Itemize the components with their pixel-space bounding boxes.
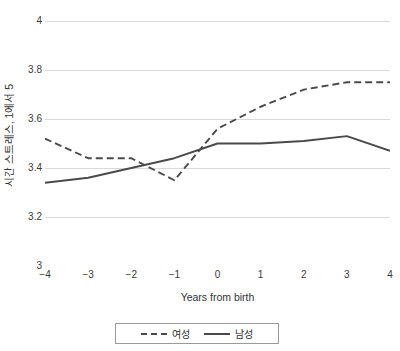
x-axis-title: Years from birth xyxy=(45,291,390,303)
y-axis-tick-label: 3.2 xyxy=(2,212,42,222)
chart-figure: 시간 스트레스, 1에서 5 33.23.43.63.84 −4−3−2−101… xyxy=(0,0,400,351)
x-axis-tick-label: 1 xyxy=(246,270,276,280)
x-axis-tick-labels: −4−3−2−101234 xyxy=(45,270,390,286)
x-axis-tick-label: 3 xyxy=(332,270,362,280)
series-line-1 xyxy=(45,82,390,180)
y-axis-tick-labels: 33.23.43.63.84 xyxy=(0,0,42,290)
y-axis-tick-label: 3.6 xyxy=(2,114,42,124)
plot-area xyxy=(45,21,390,266)
legend-swatch-dashed-icon xyxy=(141,333,167,335)
x-axis-tick-label: −2 xyxy=(116,270,146,280)
series-lines xyxy=(45,82,390,182)
x-axis-tick-label: 0 xyxy=(203,270,233,280)
legend-item-label: 남성 xyxy=(235,326,253,341)
y-axis-tick-label: 4 xyxy=(2,16,42,26)
x-axis-tick-label: −4 xyxy=(30,270,60,280)
x-axis-tick-label: 4 xyxy=(375,270,400,280)
x-axis-tick-label: −1 xyxy=(159,270,189,280)
chart-legend: 여성남성 xyxy=(115,323,279,344)
y-axis-tick-label: 3.4 xyxy=(2,163,42,173)
legend-item[interactable]: 남성 xyxy=(204,326,253,341)
chart-svg xyxy=(45,21,390,266)
legend-item-label: 여성 xyxy=(172,326,190,341)
y-axis-tick-label: 3.8 xyxy=(2,65,42,75)
x-axis-tick-label: −3 xyxy=(73,270,103,280)
legend-swatch-solid-icon xyxy=(204,333,230,335)
x-axis-tick-label: 2 xyxy=(289,270,319,280)
series-line-2 xyxy=(45,136,390,183)
legend-item[interactable]: 여성 xyxy=(141,326,190,341)
